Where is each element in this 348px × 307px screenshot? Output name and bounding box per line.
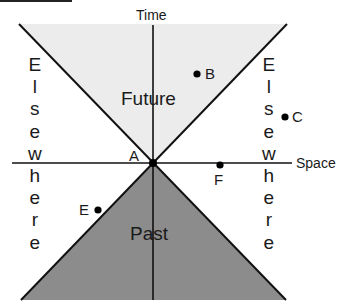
- elsewhere-left-letter: l: [33, 76, 37, 98]
- point-b-label: B: [205, 66, 215, 81]
- elsewhere-left-letter: e: [30, 232, 41, 254]
- elsewhere-right-letter: e: [264, 121, 275, 143]
- future-region-label: Future: [121, 89, 176, 108]
- space-axis-label: Space: [296, 156, 336, 170]
- point-f-marker: [216, 161, 223, 168]
- elsewhere-right-letter: s: [264, 98, 274, 120]
- elsewhere-left-letter: r: [32, 209, 38, 231]
- elsewhere-left-label: E l s e w h e r e: [28, 54, 42, 254]
- point-a-marker: [149, 159, 157, 167]
- elsewhere-left-letter: s: [30, 98, 40, 120]
- time-axis-label: Time: [136, 8, 167, 22]
- point-a-label: A: [129, 148, 139, 163]
- point-c-label: C: [292, 109, 303, 124]
- point-c-marker: [281, 113, 288, 120]
- elsewhere-left-letter: e: [30, 121, 41, 143]
- elsewhere-left-letter: E: [29, 54, 42, 76]
- elsewhere-right-letter: w: [262, 143, 276, 165]
- elsewhere-right-letter: e: [264, 232, 275, 254]
- point-f-label: F: [214, 172, 223, 187]
- elsewhere-right-label: E l s e w h e r e: [262, 54, 276, 254]
- past-region-label: Past: [130, 224, 168, 243]
- point-b-marker: [193, 70, 200, 77]
- elsewhere-right-letter: h: [264, 165, 275, 187]
- elsewhere-left-letter: w: [28, 143, 42, 165]
- light-cone-diagram: [0, 0, 348, 307]
- point-e-marker: [94, 206, 101, 213]
- elsewhere-right-letter: E: [263, 54, 276, 76]
- elsewhere-left-letter: h: [30, 165, 41, 187]
- elsewhere-right-letter: e: [264, 187, 275, 209]
- elsewhere-left-letter: e: [30, 187, 41, 209]
- elsewhere-right-letter: r: [266, 209, 272, 231]
- point-e-label: E: [79, 202, 89, 217]
- elsewhere-right-letter: l: [267, 76, 271, 98]
